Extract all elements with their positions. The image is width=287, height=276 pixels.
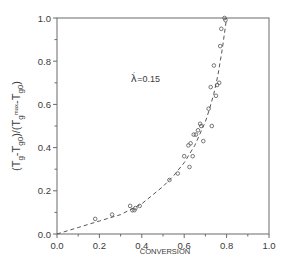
y-tick-label: 0.6	[38, 99, 51, 110]
data-point	[93, 217, 97, 221]
data-point	[110, 213, 114, 217]
y-tick-label: 1.0	[38, 13, 51, 24]
data-point	[214, 94, 218, 98]
y-tick-label: 0.2	[38, 185, 51, 196]
data-point	[220, 27, 224, 31]
x-axis-title: CONVERSION	[140, 247, 190, 256]
data-point	[212, 64, 216, 68]
data-point	[218, 44, 222, 48]
data-point	[128, 204, 132, 208]
data-point	[209, 85, 213, 89]
data-point	[224, 18, 228, 22]
x-tick-label: 0.0	[50, 240, 63, 251]
data-point	[191, 154, 195, 158]
x-tick-label: 1.0	[262, 240, 275, 251]
svg-text:λ' =0.15: λ' =0.15	[131, 71, 160, 84]
data-point	[217, 81, 221, 85]
data-points	[93, 16, 227, 221]
data-point	[196, 129, 200, 133]
data-point	[207, 107, 211, 111]
data-point	[202, 139, 206, 143]
data-point	[187, 144, 191, 148]
x-tick-label: 0.2	[93, 240, 106, 251]
lambda-annotation: λ' =0.15	[131, 71, 160, 84]
data-point	[210, 124, 214, 128]
data-point	[176, 172, 180, 176]
data-point	[189, 142, 193, 146]
data-point	[188, 165, 192, 169]
svg-text:(Tg-Tg0)/(Tgmax-Tg0): (Tg-Tg0)/(Tgmax-Tg0)	[10, 81, 25, 171]
x-tick-label: 0.8	[220, 240, 233, 251]
y-axis-title: (Tg-Tg0)/(Tgmax-Tg0)	[10, 81, 25, 171]
fit-curve	[57, 18, 227, 234]
plot-axes	[57, 18, 269, 234]
data-point	[182, 154, 186, 158]
y-tick-label: 0.8	[38, 56, 51, 67]
y-tick-label: 0.4	[38, 142, 51, 153]
y-axis-ticks: 0.00.20.40.60.81.0	[38, 13, 57, 240]
y-tick-label: 0.0	[38, 229, 51, 240]
chart: 0.00.20.40.60.81.0 0.00.20.40.60.81.0 CO…	[0, 0, 287, 276]
